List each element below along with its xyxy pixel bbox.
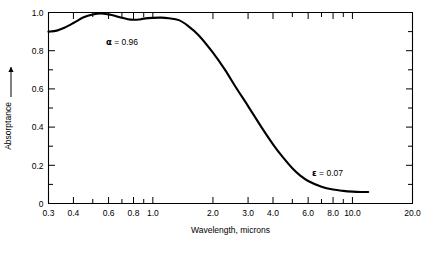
alpha-annotation-value: = 0.96 [112, 37, 139, 47]
y-tick-label: 0.2 [32, 161, 44, 171]
y-tick-label: 1.0 [32, 8, 44, 18]
x-tick-label: 3.0 [242, 208, 254, 218]
x-tick-label: 0.6 [103, 208, 115, 218]
x-tick-label: 20.0 [404, 208, 421, 218]
axis-ticks [49, 13, 413, 204]
y-tick-label: 0 [39, 199, 44, 209]
epsilon-annotation-value: = 0.07 [317, 168, 344, 178]
x-tick-label: 4.0 [267, 208, 279, 218]
x-tick-label: 2.0 [207, 208, 219, 218]
x-tick-label: 0.8 [128, 208, 140, 218]
epsilon-annotation: ε = 0.07 [312, 168, 343, 178]
alpha-annotation: α = 0.96 [106, 37, 138, 47]
x-tick-label: 0.4 [68, 208, 80, 218]
y-tick-label: 0.4 [32, 122, 44, 132]
x-tick-label: 8.0 [327, 208, 339, 218]
y-axis-direction-arrow-head [8, 67, 13, 72]
absorptance-curve [49, 13, 369, 192]
x-tick-label: 1.0 [147, 208, 159, 218]
x-axis-title: Wavelength, microns [191, 225, 270, 235]
x-tick-label: 6.0 [302, 208, 314, 218]
x-tick-labels: 0.30.40.60.81.02.03.04.06.08.010.020.0 [43, 208, 421, 218]
chart-annotations: α = 0.96ε = 0.07 [106, 37, 343, 178]
absorptance-curve-path [49, 13, 369, 192]
absorptance-spectrum-figure: 0.30.40.60.81.02.03.04.06.08.010.020.0 0… [0, 0, 432, 254]
chart-canvas: 0.30.40.60.81.02.03.04.06.08.010.020.0 0… [0, 0, 432, 254]
x-tick-label: 0.3 [43, 208, 55, 218]
plot-frame [49, 13, 413, 204]
y-tick-label: 0.8 [32, 46, 44, 56]
y-tick-labels: 00.20.40.60.81.0 [32, 8, 44, 209]
y-tick-label: 0.6 [32, 84, 44, 94]
x-tick-label: 10.0 [344, 208, 361, 218]
axes-frame [49, 13, 413, 204]
y-axis-title: Absorptance [3, 102, 13, 150]
